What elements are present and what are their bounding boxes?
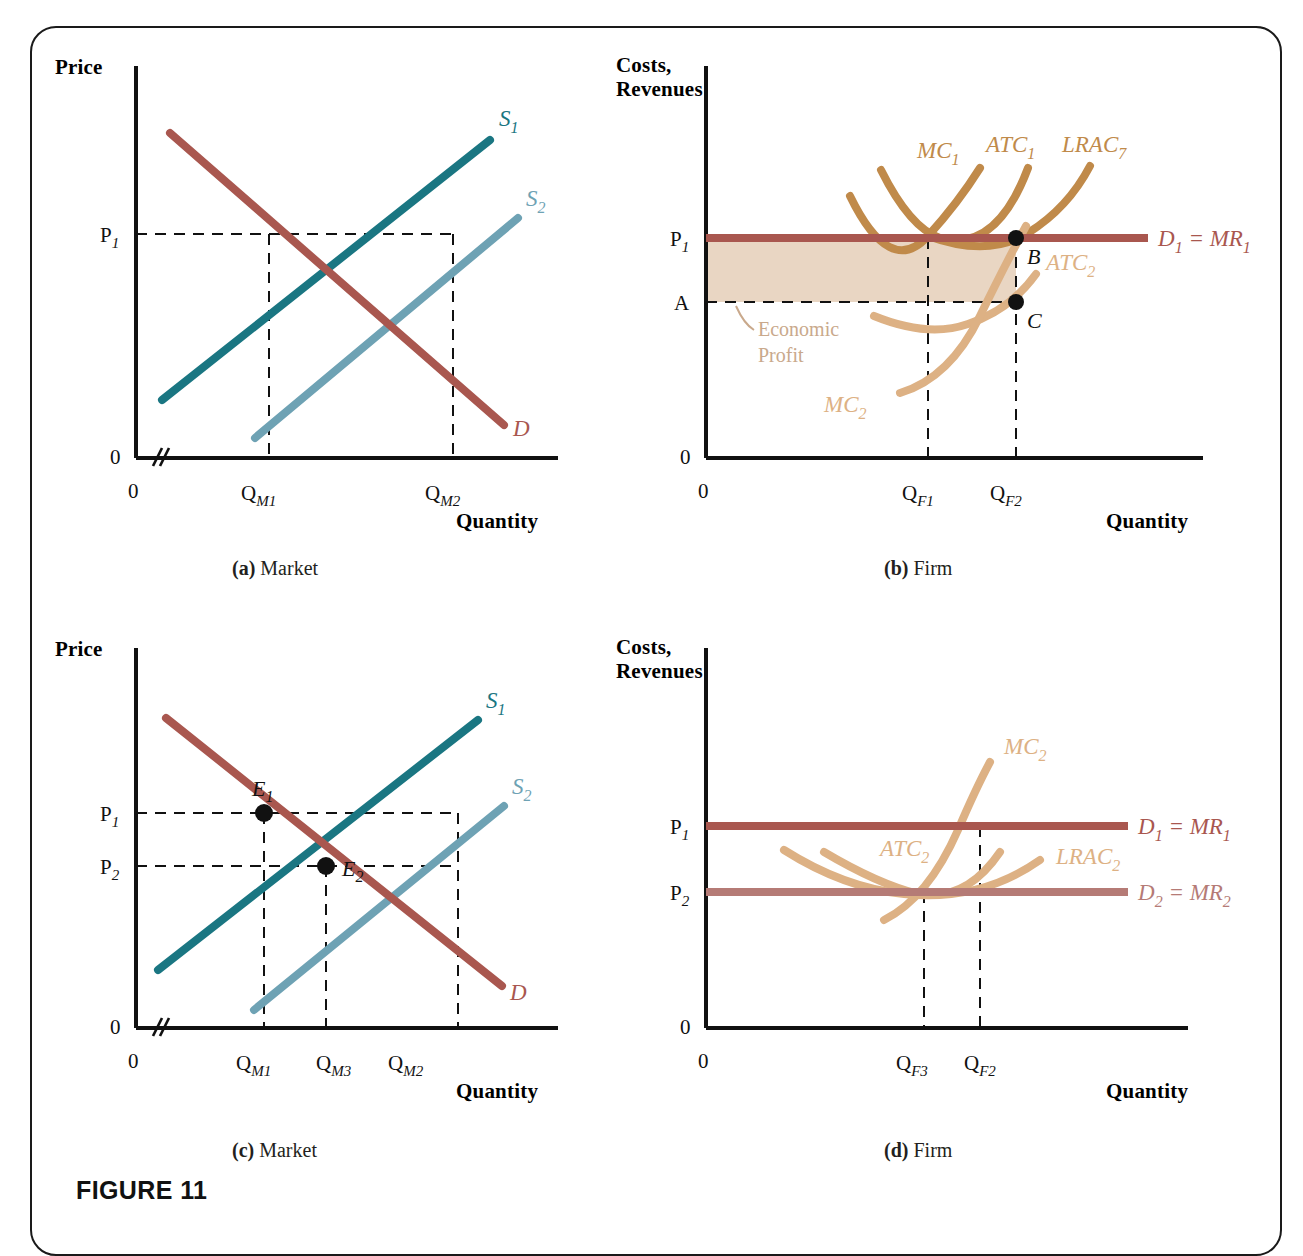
panel-a-market: S1 S2 D P1 0 0 QM1 QM2 Price Quantity — [58, 48, 578, 548]
panel-b-firm: B C MC1 ATC1 LRAC7 ATC2 MC2 D1 = MR1 Eco… — [628, 48, 1228, 548]
economic-profit-label-line1: Economic — [758, 318, 839, 340]
panel-b-caption-text: Firm — [913, 557, 952, 579]
panel-d-ylabel-line2: Revenues — [616, 660, 703, 684]
panel-c-ylabel: Price — [55, 638, 103, 662]
x-axis-zero: 0 — [698, 1049, 709, 1073]
xtick-label-qm3: QM3 — [316, 1051, 351, 1079]
economic-profit-label-line2: Profit — [758, 344, 804, 366]
economic-profit-leader — [736, 306, 754, 330]
ytick-label-p2: P2 — [100, 855, 120, 883]
panel-a-xlabel: Quantity — [456, 510, 538, 534]
ytick-label-p2: P2 — [670, 881, 690, 909]
panel-b-ylabel: Costs, Revenues — [616, 54, 703, 101]
panel-d-ylabel-line1: Costs, — [616, 636, 703, 660]
panel-d-firm: MC2 ATC2 LRAC2 D1 = MR1 D2 = MR2 P1 P2 0… — [628, 630, 1228, 1130]
curve-label-d: D — [509, 980, 527, 1005]
demand-mr-label-d2: D2 = MR2 — [1137, 880, 1231, 910]
point-label-b: B — [1027, 244, 1040, 269]
curve-label-lrac2: LRAC2 — [1055, 844, 1120, 874]
point-label-c: C — [1027, 308, 1042, 333]
panel-b-caption-letter: (b) — [884, 557, 908, 579]
panel-a-ylabel: Price — [55, 56, 103, 80]
curve-label-s2: S2 — [526, 186, 546, 216]
y-axis-zero: 0 — [110, 445, 121, 469]
point-e1 — [255, 804, 273, 822]
ytick-label-p1: P1 — [670, 815, 689, 843]
xtick-label-qf1: QF1 — [902, 481, 934, 509]
panel-c-caption-text: Market — [259, 1139, 317, 1161]
figure-caption-label: FIGURE 11 — [76, 1176, 207, 1205]
xtick-label-qm1: QM1 — [236, 1051, 271, 1079]
ytick-label-p1: P1 — [100, 802, 119, 830]
xtick-label-qf2: QF2 — [990, 481, 1022, 509]
curve-label-mc2: MC2 — [823, 392, 867, 422]
panel-d-caption-text: Firm — [913, 1139, 952, 1161]
point-e2 — [317, 857, 335, 875]
curve-label-mc1: MC1 — [916, 138, 960, 168]
curve-label-d: D — [512, 416, 530, 441]
demand-mr-label-d1: D1 = MR1 — [1137, 814, 1231, 844]
panel-b-ylabel-line1: Costs, — [616, 54, 703, 78]
panel-b-ylabel-line2: Revenues — [616, 78, 703, 102]
panel-c-caption: (c) Market — [232, 1139, 317, 1162]
ytick-label-p1: P1 — [100, 223, 119, 251]
curve-label-s1: S1 — [499, 106, 519, 136]
panel-b-caption: (b) Firm — [884, 557, 952, 580]
x-axis-zero: 0 — [128, 1049, 139, 1073]
y-axis-zero: 0 — [680, 1015, 691, 1039]
xtick-label-qm2: QM2 — [425, 481, 461, 509]
panel-d-ylabel: Costs, Revenues — [616, 636, 703, 683]
curve-label-s2: S2 — [512, 774, 532, 804]
panel-c-market: E1 E2 S1 S2 D P1 P2 0 0 QM1 QM3 QM2 Pric… — [58, 630, 578, 1130]
xtick-label-qf3: QF3 — [896, 1051, 928, 1079]
panel-a-caption-letter: (a) — [232, 557, 255, 579]
xtick-label-qf2: QF2 — [964, 1051, 996, 1079]
xtick-label-qm1: QM1 — [241, 481, 276, 509]
supply-curve-s2 — [254, 806, 504, 1010]
ytick-label-a: A — [674, 291, 690, 315]
curve-label-atc2: ATC2 — [878, 836, 929, 866]
curve-label-lrac1: LRAC7 — [1061, 132, 1127, 162]
curve-label-s1: S1 — [486, 688, 506, 718]
panel-c-caption-letter: (c) — [232, 1139, 254, 1161]
panel-b-xlabel: Quantity — [1106, 510, 1188, 534]
curve-label-atc2: ATC2 — [1044, 250, 1095, 280]
y-axis-zero: 0 — [680, 445, 691, 469]
point-c — [1008, 294, 1024, 310]
panel-a-caption: (a) Market — [232, 557, 318, 580]
x-axis-zero: 0 — [128, 479, 139, 503]
curve-label-atc1: ATC1 — [984, 132, 1035, 162]
panel-d-xlabel: Quantity — [1106, 1080, 1188, 1104]
xtick-label-qm2: QM2 — [388, 1051, 424, 1079]
point-label-e1: E1 — [251, 776, 273, 805]
panel-d-caption-letter: (d) — [884, 1139, 908, 1161]
panel-c-xlabel: Quantity — [456, 1080, 538, 1104]
y-axis-zero: 0 — [110, 1015, 121, 1039]
x-axis-zero: 0 — [698, 479, 709, 503]
panel-d-caption: (d) Firm — [884, 1139, 952, 1162]
ytick-label-p1: P1 — [670, 227, 689, 255]
curve-label-mc2: MC2 — [1003, 734, 1047, 764]
panel-a-caption-text: Market — [260, 557, 318, 579]
point-b — [1008, 230, 1024, 246]
point-label-e2: E2 — [341, 856, 363, 885]
